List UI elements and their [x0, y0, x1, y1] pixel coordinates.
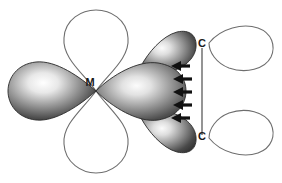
orbital-diagram: M C C — [0, 0, 282, 183]
figure-canvas: M C C — [0, 0, 282, 183]
metal-atom-label: M — [85, 76, 94, 88]
carbon-lobe-bottom — [209, 110, 273, 154]
carbon-lobe-top — [209, 26, 273, 70]
carbon-top-label: C — [198, 37, 206, 49]
carbon-bottom-label: C — [198, 130, 206, 142]
